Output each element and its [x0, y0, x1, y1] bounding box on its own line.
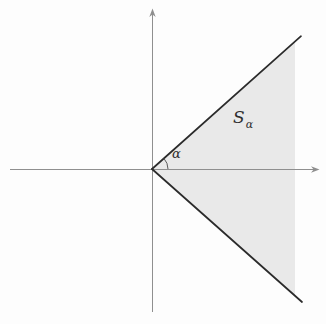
angle-label: α	[172, 146, 181, 161]
sector-figure: α Sα	[0, 0, 326, 324]
region-label-subscript: α	[246, 118, 254, 131]
sector-diagram-canvas: α Sα	[0, 0, 326, 324]
region-label-base: S	[233, 107, 245, 127]
